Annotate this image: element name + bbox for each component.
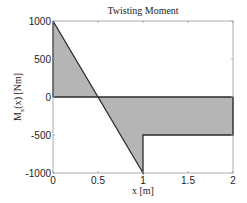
twisting-moment-chart: 00.511.5210005000-500-1000Twisting Momen…: [0, 0, 247, 203]
y-tick-label: 1000: [29, 16, 52, 27]
y-tick-label: -1000: [25, 168, 51, 179]
x-tick-label: 0.5: [91, 175, 105, 186]
y-tick-label: 0: [45, 92, 51, 103]
x-tick-label: 2: [230, 175, 236, 186]
y-tick-label: -500: [31, 130, 51, 141]
x-tick-label: 1.5: [181, 175, 195, 186]
y-axis-label: Mx(x) [Nm]: [12, 73, 26, 121]
x-axis-label: x [m]: [132, 185, 154, 196]
chart-title: Twisting Moment: [107, 5, 178, 16]
x-tick-label: 0: [50, 175, 56, 186]
y-tick-label: 500: [34, 54, 51, 65]
